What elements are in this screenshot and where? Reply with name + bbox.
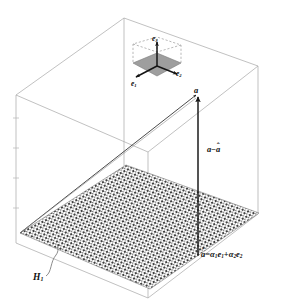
triad-dash-left	[133, 44, 157, 52]
figure-root: a a−̂a ̂a=α1e1+α2e2 e1 e2 e3 H1	[0, 0, 281, 303]
label-vector-a: a	[194, 86, 198, 95]
label-basis-e2: e2	[176, 70, 182, 79]
label-hyperplane-h1: H1	[33, 273, 43, 283]
triad-dash-right	[157, 37, 181, 52]
label-projection-equation: ̂a=α1e1+α2e2	[201, 250, 242, 259]
box-top-face	[16, 18, 258, 152]
a-hat-glyph: ̂a	[216, 145, 220, 154]
hyperplane-surface	[20, 165, 259, 289]
label-a-minus-a-hat: a−̂a	[207, 145, 220, 154]
label-basis-e3: e3	[152, 35, 158, 44]
a-hat-glyph: ̂a	[201, 250, 205, 259]
e2-subscript: 2	[240, 253, 243, 259]
e2-subscript: 2	[179, 73, 181, 78]
hyperplane-H1	[20, 165, 259, 289]
e3-subscript: 3	[155, 38, 157, 43]
projection-point-marker	[197, 254, 199, 256]
e1-subscript: 1	[134, 83, 136, 88]
label-basis-e1: e1	[131, 80, 137, 89]
h1-subscript: 1	[40, 276, 43, 282]
